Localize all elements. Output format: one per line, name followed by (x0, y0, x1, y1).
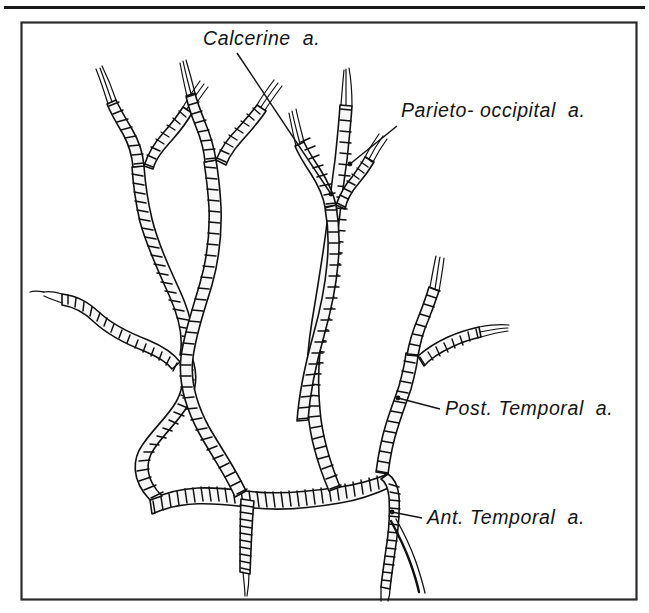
label-post-temporal: Post. Temporal a. (445, 397, 613, 419)
central-descending-branch (240, 499, 254, 596)
main-trunk (150, 474, 393, 514)
ant-temporal-vessel (381, 474, 400, 601)
second-left-bifurcation-arms (180, 60, 282, 165)
parieto-occipital-leader-dot (348, 162, 353, 167)
label-ant-temporal-group: Ant. Temporal a. (390, 506, 585, 528)
second-left-vessel (180, 160, 247, 497)
figure-container: Calcerine a. Parieto- occipital a. Post.… (0, 0, 649, 613)
parieto-occipital-leader (350, 126, 397, 164)
label-parieto-occipital: Parieto- occipital a. (401, 99, 585, 121)
left-bifurcation-arms (96, 66, 208, 169)
ant-temporal-leader-dot (390, 510, 395, 515)
label-ant-temporal: Ant. Temporal a. (426, 506, 585, 528)
artery-diagram: Calcerine a. Parieto- occipital a. Post.… (0, 0, 649, 613)
label-parieto-occipital-group: Parieto- occipital a. (348, 99, 586, 166)
label-calcarine: Calcerine a. (203, 27, 320, 49)
lower-left-tip (30, 291, 44, 292)
post-temporal-bifurcation-arms (407, 256, 509, 366)
ant-temporal-secondary-branch (391, 519, 425, 593)
calcarine-leader-dot (329, 192, 334, 197)
post-temporal-vessel (376, 353, 418, 474)
post-temporal-leader-dot (396, 396, 401, 401)
left-upper-vessel (132, 166, 193, 357)
label-post-temporal-group: Post. Temporal a. (396, 396, 614, 419)
far-left-branch (44, 292, 180, 371)
